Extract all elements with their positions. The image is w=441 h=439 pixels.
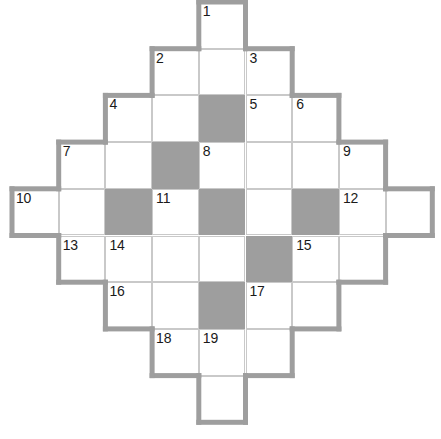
- grid-letter-cell[interactable]: 1: [199, 2, 246, 49]
- grid-letter-cell[interactable]: [292, 142, 339, 189]
- grid-letter-cell[interactable]: 19: [199, 329, 246, 376]
- grid-letter-cell[interactable]: 6: [292, 95, 339, 142]
- grid-letter-cell[interactable]: [105, 142, 152, 189]
- grid-block-cell: [246, 236, 293, 283]
- grid-letter-cell[interactable]: [199, 49, 246, 96]
- grid-letter-cell[interactable]: [152, 95, 199, 142]
- grid-letter-cell[interactable]: [152, 282, 199, 329]
- cell-number: 4: [109, 96, 117, 113]
- cell-number: 10: [16, 190, 31, 207]
- cell-number: 13: [63, 237, 78, 254]
- cell-number: 2: [156, 50, 164, 67]
- cell-number: 7: [63, 143, 71, 160]
- cell-number: 3: [250, 50, 258, 67]
- cell-number: 19: [203, 330, 218, 347]
- cell-number: 16: [109, 283, 124, 300]
- grid-block-cell: [199, 282, 246, 329]
- cell-number: 14: [109, 237, 124, 254]
- grid-letter-cell[interactable]: 17: [246, 282, 293, 329]
- grid-letter-cell[interactable]: 2: [152, 49, 199, 96]
- grid-letter-cell[interactable]: [59, 189, 106, 236]
- grid-letter-cell[interactable]: [199, 376, 246, 423]
- grid-letter-cell[interactable]: 13: [59, 236, 106, 283]
- cell-number: 15: [296, 237, 311, 254]
- grid-letter-cell[interactable]: [199, 236, 246, 283]
- cell-number: 5: [250, 96, 258, 113]
- grid-letter-cell[interactable]: [339, 236, 386, 283]
- cell-number: 17: [250, 283, 265, 300]
- cell-number: 12: [343, 190, 358, 207]
- grid-block-cell: [199, 95, 246, 142]
- cell-number: 9: [343, 143, 351, 160]
- crossword-grid: 12345678910111213141516171819: [0, 0, 441, 439]
- grid-letter-cell[interactable]: 15: [292, 236, 339, 283]
- grid-letter-cell[interactable]: 10: [12, 189, 59, 236]
- grid-letter-cell[interactable]: 8: [199, 142, 246, 189]
- grid-letter-cell[interactable]: 7: [59, 142, 106, 189]
- grid-letter-cell[interactable]: 16: [105, 282, 152, 329]
- grid-letter-cell[interactable]: [246, 142, 293, 189]
- grid-letter-cell[interactable]: 3: [246, 49, 293, 96]
- grid-block-cell: [105, 189, 152, 236]
- grid-block-cell: [152, 142, 199, 189]
- cell-number: 11: [156, 190, 170, 207]
- crossword-puzzle: 12345678910111213141516171819: [0, 0, 441, 439]
- grid-letter-cell[interactable]: 12: [339, 189, 386, 236]
- grid-letter-cell[interactable]: 9: [339, 142, 386, 189]
- grid-letter-cell[interactable]: [292, 282, 339, 329]
- grid-letter-cell[interactable]: 4: [105, 95, 152, 142]
- cell-number: 18: [156, 330, 171, 347]
- cell-number: 6: [296, 96, 304, 113]
- grid-letter-cell[interactable]: [386, 189, 433, 236]
- grid-letter-cell[interactable]: 5: [246, 95, 293, 142]
- grid-letter-cell[interactable]: [246, 189, 293, 236]
- cell-number: 8: [203, 143, 211, 160]
- cell-number: 1: [203, 3, 211, 20]
- grid-block-cell: [199, 189, 246, 236]
- grid-letter-cell[interactable]: 18: [152, 329, 199, 376]
- grid-letter-cell[interactable]: 14: [105, 236, 152, 283]
- grid-block-cell: [292, 189, 339, 236]
- grid-letter-cell[interactable]: 11: [152, 189, 199, 236]
- grid-letter-cell[interactable]: [246, 329, 293, 376]
- grid-letter-cell[interactable]: [152, 236, 199, 283]
